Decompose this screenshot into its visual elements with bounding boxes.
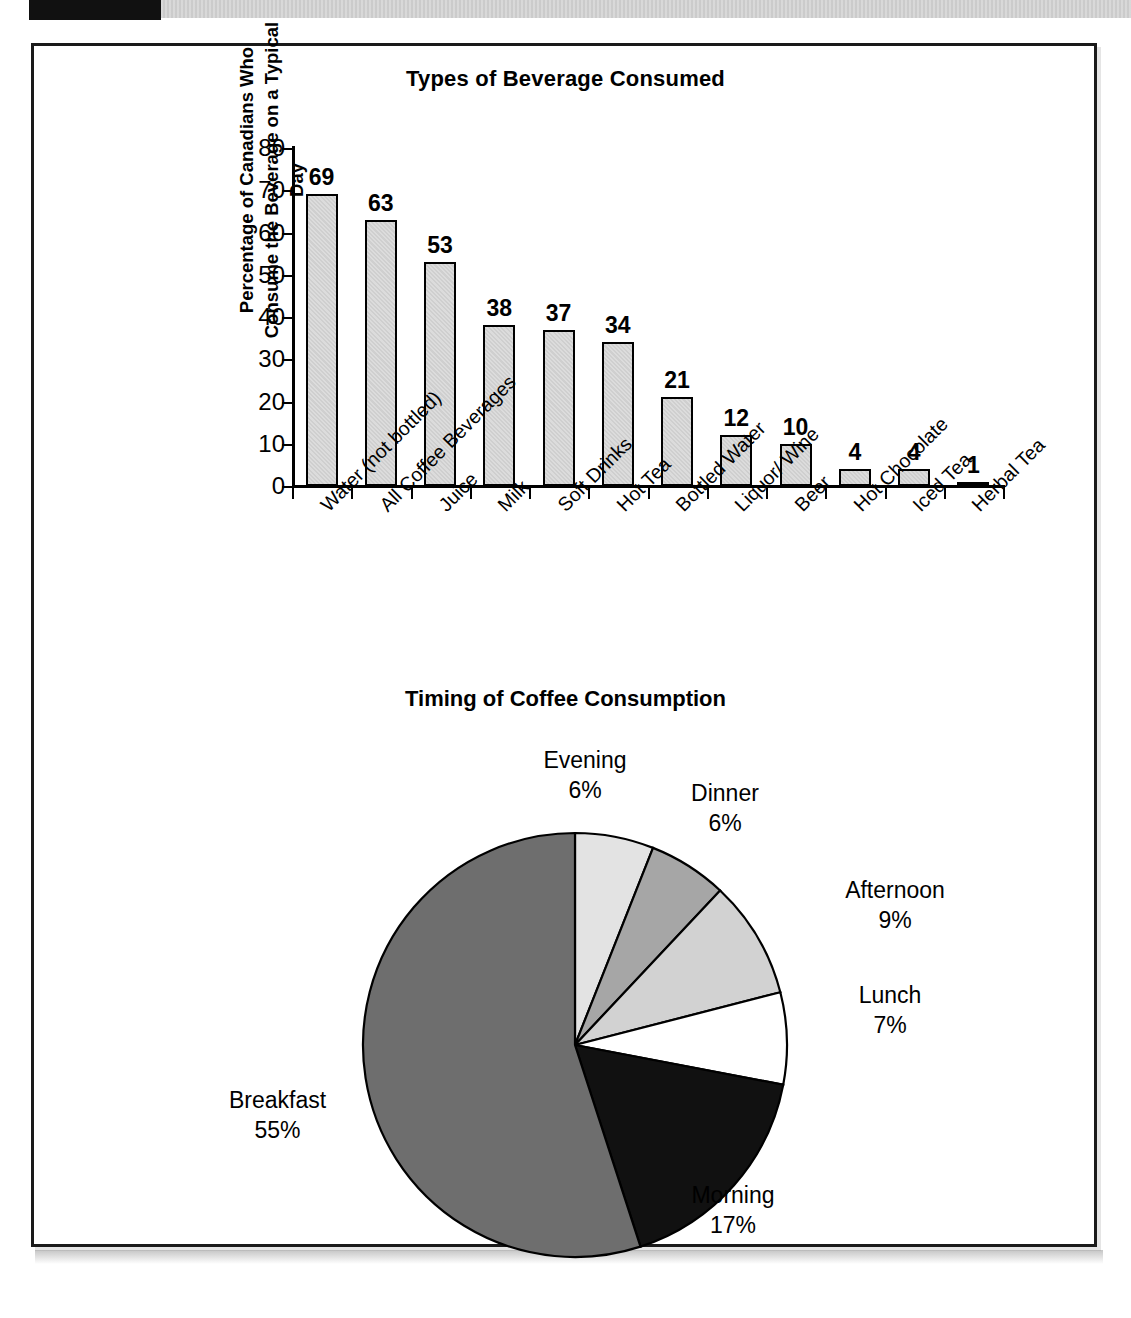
pie-slice-value: 17% [648, 1210, 818, 1240]
pie-slice-value: 55% [185, 1115, 370, 1145]
bar-chart-y-tick-mark [282, 359, 293, 361]
bar-chart-y-tick-mark [282, 148, 293, 150]
bar-chart-y-tick-mark [282, 317, 293, 319]
bar-value-label: 53 [410, 232, 470, 259]
pie-slice-name: Dinner [650, 778, 800, 808]
bar-value-label: 69 [292, 164, 352, 191]
bar-chart-y-tick-label: 60 [239, 219, 285, 247]
pie-slice-label: Afternoon9% [800, 875, 990, 935]
bar-chart-x-tick-mark [411, 488, 413, 499]
bar-chart-x-tick-mark [944, 488, 946, 499]
pie-slice-name: Afternoon [800, 875, 990, 905]
bar [543, 330, 575, 486]
pie-slice-value: 9% [800, 905, 990, 935]
bar-value-label: 4 [825, 439, 885, 466]
pie-slice-label: Morning17% [648, 1180, 818, 1240]
bar-chart-y-tick-label: 40 [239, 303, 285, 331]
bar-chart-y-tick-mark [282, 402, 293, 404]
pie-slice-value: 7% [820, 1010, 960, 1040]
bar-value-label: 63 [351, 190, 411, 217]
pie-slice-name: Lunch [820, 980, 960, 1010]
bar-chart-y-tick-label: 10 [239, 430, 285, 458]
bar-chart-x-tick-mark [470, 488, 472, 499]
pie-slice-value: 6% [505, 775, 665, 805]
pie-chart-title: Timing of Coffee Consumption [0, 686, 1131, 712]
bar-chart-x-tick-mark [351, 488, 353, 499]
bar-chart-y-tick-mark [282, 444, 293, 446]
bar-value-label: 37 [529, 300, 589, 327]
bar-chart-y-tick-label: 20 [239, 388, 285, 416]
pie-slice-label: Lunch7% [820, 980, 960, 1040]
bar-chart-y-tick-label: 50 [239, 261, 285, 289]
bar-chart-x-tick-mark [588, 488, 590, 499]
bar [306, 194, 338, 486]
bar-chart-x-tick-mark [707, 488, 709, 499]
bar-chart-y-tick-label: 30 [239, 345, 285, 373]
bar-chart-x-tick-mark [292, 488, 294, 499]
bar-chart-x-tick-mark [648, 488, 650, 499]
bar-chart-x-tick-mark [766, 488, 768, 499]
pie-slice-name: Breakfast [185, 1085, 370, 1115]
bar-chart-x-tick-mark [529, 488, 531, 499]
pie-slice-name: Evening [505, 745, 665, 775]
pie-slice-label: Breakfast55% [185, 1085, 370, 1145]
bar-chart-y-tick-label: 70 [239, 176, 285, 204]
bar-chart-title: Types of Beverage Consumed [0, 66, 1131, 92]
bar-chart-y-tick-label: 0 [239, 472, 285, 500]
pie-slice-value: 6% [650, 808, 800, 838]
pie-slice-label: Evening6% [505, 745, 665, 805]
bar-chart-y-tick-mark [282, 190, 293, 192]
pie-slice-name: Morning [648, 1180, 818, 1210]
bar-chart-x-tick-mark [1003, 488, 1005, 499]
bar-chart-y-ticks: 01020304050607080 [225, 148, 285, 486]
bar-chart-y-tick-mark [282, 233, 293, 235]
scan-artifact-black-bar [29, 0, 161, 20]
bar-value-label: 21 [647, 367, 707, 394]
bar-chart-x-tick-mark [825, 488, 827, 499]
bar-chart-x-tick-mark [885, 488, 887, 499]
bar-value-label: 38 [469, 295, 529, 322]
bar-value-label: 34 [588, 312, 648, 339]
pie-slice-label: Dinner6% [650, 778, 800, 838]
bar-chart-y-tick-label: 80 [239, 134, 285, 162]
bar-chart-y-tick-mark [282, 275, 293, 277]
